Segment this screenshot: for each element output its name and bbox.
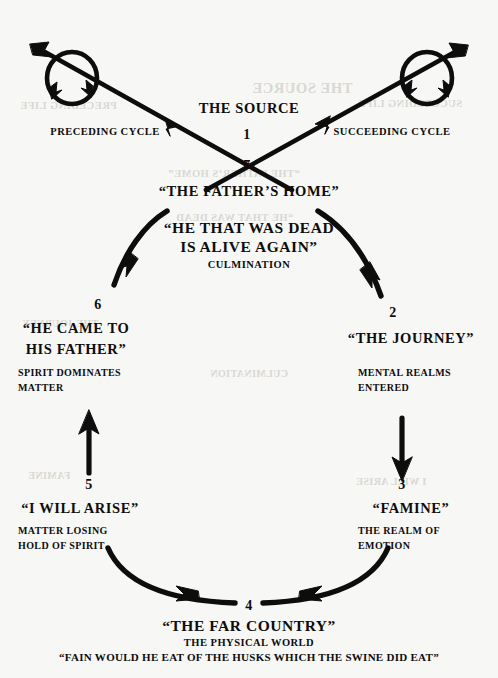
station-number-5: 5: [85, 477, 92, 493]
station-3-caption-line-1: THE REALM OF: [358, 525, 440, 536]
station-6-title-line-1: “HE CAME TO: [23, 320, 130, 336]
station-6-caption-line-1: SPIRIT DOMINATES: [18, 367, 121, 378]
arc-3-to-4: [263, 548, 388, 603]
station-5-caption-line-2: HOLD OF SPIRIT: [18, 540, 105, 551]
culmination-caption: CULMINATION: [208, 259, 291, 271]
the-source-label: THE SOURCE: [199, 100, 299, 116]
station-2-caption-line-1: MENTAL REALMS: [358, 367, 451, 378]
station-5-caption-line-1: MATTER LOSING: [18, 525, 108, 536]
fathers-home-label: “THE FATHER’S HOME”: [159, 183, 339, 199]
station-3-caption-line-2: EMOTION: [358, 540, 410, 551]
prodigal-son-cycle-diagram: THE SOURCE PRECEDING LIFE SUCCEEDING LIF…: [0, 0, 498, 678]
station-3-title: “FAMINE”: [373, 500, 450, 516]
station-number-7: 7: [243, 158, 250, 174]
station-2-title: “THE JOURNEY”: [348, 330, 474, 346]
station-number-3: 3: [398, 477, 405, 493]
culmination-line-1: “HE THAT WAS DEAD: [164, 219, 334, 236]
station-5-title: “I WILL ARISE”: [21, 500, 138, 516]
station-number-2: 2: [389, 305, 396, 321]
arrow-5-to-6: [79, 410, 99, 473]
succeeding-loop-arrowhead-left: [404, 80, 417, 97]
station-6-title-line-2: HIS FATHER”: [26, 341, 127, 357]
preceding-loop-arrowhead-left: [49, 82, 62, 99]
station-number-6: 6: [94, 297, 101, 313]
preceding-loop-arrowhead-right: [81, 80, 93, 97]
station-number-4: 4: [245, 598, 252, 614]
arc-6-to-7: [114, 211, 167, 285]
station-4-scripture-quote: “FAIN WOULD HE EAT OF THE HUSKS WHICH TH…: [59, 651, 439, 663]
station-4-caption-line-1: THE PHYSICAL WORLD: [184, 637, 314, 649]
arc-4-to-5: [108, 548, 235, 603]
station-2-caption-line-2: ENTERED: [358, 382, 409, 393]
station-4-title: “THE FAR COUNTRY”: [162, 617, 336, 634]
culmination-line-2: IS ALIVE AGAIN”: [180, 238, 317, 255]
station-number-1: 1: [243, 127, 250, 143]
preceding-cycle-label: PRECEDING CYCLE: [50, 126, 159, 138]
arrow-2-to-3: [392, 418, 412, 481]
succeeding-cycle-label: SUCCEEDING CYCLE: [334, 126, 451, 138]
station-6-caption-line-2: MATTER: [18, 382, 64, 393]
